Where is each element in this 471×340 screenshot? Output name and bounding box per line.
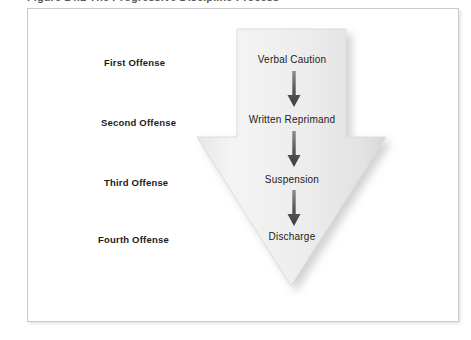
- progressive-discipline-diagram: First Offense Second Offense Third Offen…: [28, 9, 458, 321]
- step-discharge: Discharge: [192, 231, 392, 242]
- step-suspension: Suspension: [192, 174, 392, 185]
- figure-caption: Figure 14.1 The Progressive Discipline P…: [27, 0, 447, 5]
- arrow-down-icon: [283, 71, 305, 109]
- stage-label-fourth-offense: Fourth Offense: [98, 234, 169, 245]
- figure-frame: First Offense Second Offense Third Offen…: [27, 8, 459, 322]
- step-verbal-caution: Verbal Caution: [192, 54, 392, 65]
- stage-label-third-offense: Third Offense: [104, 177, 168, 188]
- arrow-down-icon: [283, 131, 305, 169]
- stage-label-first-offense: First Offense: [104, 57, 165, 68]
- stage-label-second-offense: Second Offense: [101, 117, 176, 128]
- step-written-reprimand: Written Reprimand: [192, 114, 392, 125]
- arrow-down-icon: [283, 190, 305, 228]
